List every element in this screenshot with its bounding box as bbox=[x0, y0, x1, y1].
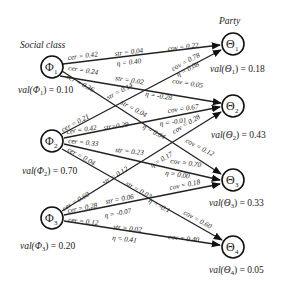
edge-label-eta: η = 0.00 bbox=[165, 169, 191, 180]
node-symbol: Φ bbox=[45, 60, 54, 74]
node-symbol: Θ bbox=[226, 240, 235, 254]
value-label-phi3: val(Φ3) = 0.20 bbox=[20, 241, 75, 252]
edge-labels: cer = 0.42 str = 0.04 η = 0.40 cov = 0.2… bbox=[60, 41, 215, 244]
value-label-phi1: val(Φ1) = 0.10 bbox=[18, 85, 73, 96]
node-symbol: Θ bbox=[226, 173, 235, 187]
right-group-title: Party bbox=[218, 16, 241, 26]
value-label-theta3: val(Θ3) = 0.33 bbox=[209, 198, 264, 209]
edge-label-eta: η = -0.1 bbox=[147, 197, 171, 215]
node-subscript: 1 bbox=[235, 45, 239, 53]
right-node-theta4: Θ 4 bbox=[222, 236, 244, 258]
edge-label-cov: cov = 0.05 bbox=[172, 77, 204, 90]
edge-label-cov: cov = 0.18 bbox=[169, 178, 201, 192]
right-node-theta3: Θ 3 bbox=[222, 169, 244, 191]
right-node-theta2: Θ 2 bbox=[222, 95, 244, 117]
edge-label-eta: η = 0.40 bbox=[116, 57, 142, 68]
edge-label-eta: η = -0.28 bbox=[145, 90, 173, 102]
value-label-phi2: val(Φ2) = 0.70 bbox=[22, 166, 77, 177]
edge-label-str: str=0.29 bbox=[103, 121, 129, 132]
value-label-theta4: val(Θ4) = 0.05 bbox=[209, 265, 264, 276]
edge-label-str: str = 0.23 bbox=[115, 146, 145, 157]
node-subscript: 3 bbox=[54, 219, 58, 227]
edge-label-str: str = 0.02 bbox=[113, 223, 143, 234]
left-group-title: Social class bbox=[20, 40, 65, 50]
node-subscript: 3 bbox=[235, 181, 239, 189]
edge-label-str: str = 0.04 bbox=[119, 99, 148, 120]
value-label-theta2: val(Θ2) = 0.43 bbox=[211, 130, 266, 141]
edge-label-eta: η = -0.07 bbox=[104, 207, 132, 220]
node-subscript: 2 bbox=[54, 142, 58, 150]
node-symbol: Φ bbox=[45, 211, 54, 225]
edge-label-cer: cer = 0.12 bbox=[68, 216, 99, 227]
node-subscript: 1 bbox=[54, 68, 58, 76]
node-subscript: 4 bbox=[235, 248, 239, 256]
node-symbol: Θ bbox=[226, 99, 235, 113]
left-node-phi1: Φ 1 bbox=[41, 56, 63, 78]
bipartite-diagram: Social class Party cer = 0.42 str = 0.04… bbox=[0, 0, 288, 293]
value-label-theta1: val(Θ1) = 0.18 bbox=[210, 64, 265, 75]
left-node-phi2: Φ 2 bbox=[41, 130, 63, 152]
edge-label-cov: cov = 0.40 bbox=[168, 233, 200, 244]
edge-label-eta: η = 0.41 bbox=[112, 234, 137, 245]
edge-label-cer: cer = 0.04 bbox=[66, 146, 97, 168]
node-subscript: 2 bbox=[235, 107, 239, 115]
edge-label-cov: cov = 0.67 bbox=[167, 103, 199, 115]
left-node-phi3: Φ 3 bbox=[41, 207, 63, 229]
edge-label-cov: cov = 0.22 bbox=[167, 41, 199, 53]
node-symbol: Θ bbox=[226, 37, 235, 51]
right-node-theta1: Θ 1 bbox=[222, 33, 244, 55]
node-symbol: Φ bbox=[45, 134, 54, 148]
